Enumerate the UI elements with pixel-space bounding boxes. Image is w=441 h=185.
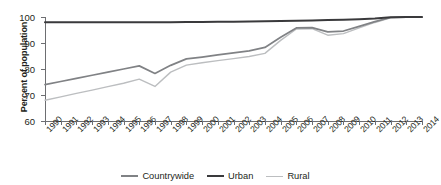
- legend-swatch-countrywide: [121, 175, 138, 177]
- legend-item-rural: Rural: [266, 171, 309, 181]
- series-line-countrywide: [45, 17, 422, 84]
- legend-swatch-urban: [207, 175, 224, 177]
- y-tick-label-70: 70: [24, 90, 35, 101]
- x-tick-label-2014: 2014: [421, 114, 441, 134]
- plot-area: 60708090100 1990199119921993199419951996…: [45, 17, 422, 121]
- series-lines: [45, 17, 422, 121]
- legend-swatch-rural: [266, 176, 283, 177]
- y-tick-label-80: 80: [24, 64, 35, 75]
- series-line-urban: [45, 17, 422, 22]
- series-line-rural: [45, 17, 422, 100]
- legend-label-rural: Rural: [287, 171, 309, 181]
- legend-item-urban: Urban: [207, 171, 253, 181]
- y-tick-label-100: 100: [19, 12, 35, 23]
- legend-label-urban: Urban: [228, 171, 253, 181]
- legend-label-countrywide: Countrywide: [142, 171, 194, 181]
- y-tick-label-60: 60: [24, 116, 35, 127]
- y-tick-label-90: 90: [24, 38, 35, 49]
- chart-legend: Countrywide Urban Rural: [0, 171, 431, 181]
- legend-item-countrywide: Countrywide: [121, 171, 194, 181]
